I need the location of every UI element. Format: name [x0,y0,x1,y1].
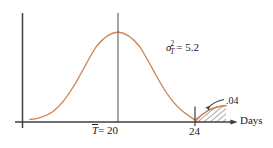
tick-label-24: 24 [189,126,200,137]
distribution-figure: σ2T= 5.2 T= 20 24 Days .04 [0,0,273,148]
x-axis-title: Days [240,115,263,126]
tail-probability-label: .04 [226,96,239,106]
mean-axis-label: T= 20 [92,124,118,137]
variance-value: = 5.2 [176,41,199,53]
mean-value: = 20 [98,124,118,136]
variance-annotation: σ2T= 5.2 [166,42,199,53]
variance-subscript: T [170,47,174,56]
distribution-chart-canvas [0,0,273,148]
